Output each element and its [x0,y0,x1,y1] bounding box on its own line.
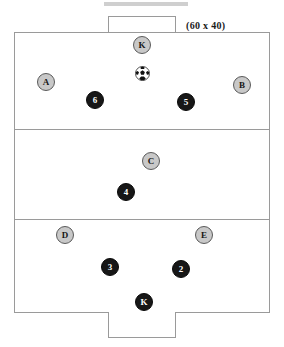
player-token-k-light[interactable]: K [133,36,151,54]
player-token-6-dark[interactable]: 6 [86,91,104,109]
player-token-e-light[interactable]: E [195,226,213,244]
top-gray-bar [104,2,188,6]
player-token-5-dark[interactable]: 5 [177,93,195,111]
goal-bottom [108,312,176,338]
player-token-b-light[interactable]: B [233,76,251,94]
player-token-d-light[interactable]: D [56,226,74,244]
player-token-4-dark[interactable]: 4 [117,183,135,201]
third-division-line-lower [14,219,270,220]
player-token-c-light[interactable]: C [142,152,160,170]
player-token-3-dark[interactable]: 3 [101,258,119,276]
player-token-2-dark[interactable]: 2 [172,260,190,278]
player-token-k-dark[interactable]: K [135,293,153,311]
soccer-formation-diagram: (60 x 40) KAB65C4DE32K [0,0,284,347]
goal-top [108,16,176,33]
third-division-line-upper [14,129,270,130]
player-token-a-light[interactable]: A [37,73,55,91]
field-size-label: (60 x 40) [186,20,225,31]
soccer-ball-icon [135,66,150,81]
